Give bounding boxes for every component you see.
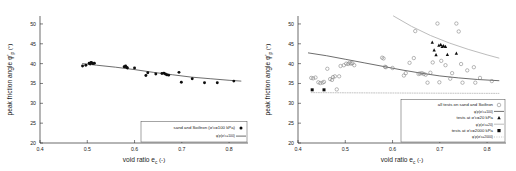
- data-point: [429, 71, 432, 74]
- x-axis-label: void ratio ec (-): [381, 156, 423, 165]
- x-axis-label-text: void ratio ec (-): [123, 156, 165, 165]
- plot-area-left: [81, 61, 241, 84]
- legend-label: all tests on sand and Soiltron: [438, 102, 494, 107]
- data-point: [337, 75, 340, 78]
- legend-label: sand and Soiltron (σ'c=100 kPa): [174, 125, 236, 130]
- data-point: [133, 67, 136, 70]
- legend-marker-filled-square: [497, 129, 500, 132]
- y-tick-label: 40: [288, 61, 294, 67]
- series-filled-circle: [81, 61, 235, 84]
- data-point: [426, 81, 429, 84]
- x-tick-label: 0.5: [342, 146, 349, 152]
- data-point: [414, 29, 417, 32]
- legend-left: sand and Soiltron (σ'c=100 kPa)φ'p(σ'c=1…: [141, 122, 247, 142]
- series-filled-square: [311, 88, 326, 91]
- data-point: [93, 62, 96, 65]
- y-tick-label: 20: [288, 140, 294, 146]
- data-point: [404, 71, 407, 74]
- y-axis-label-text: peak friction angle φ'p (°): [264, 44, 273, 116]
- data-point: [146, 71, 149, 74]
- y-tick-label: 45: [288, 41, 294, 47]
- data-point: [446, 53, 449, 56]
- data-point: [126, 67, 129, 70]
- x-tick-label: 0.7: [178, 146, 185, 152]
- data-point: [180, 81, 183, 84]
- x-tick-label: 0.5: [84, 146, 91, 152]
- data-point: [490, 79, 493, 82]
- data-point: [457, 30, 460, 33]
- data-point: [154, 72, 157, 75]
- legend-label: tests at σ'c=20 kPa: [456, 115, 493, 120]
- chart-panel-right: 202530354045500.40.50.60.70.8void ratio …: [258, 0, 516, 171]
- data-point: [474, 81, 477, 84]
- y-tick-label: 35: [30, 80, 36, 86]
- x-tick-label: 0.7: [436, 146, 443, 152]
- data-point: [203, 81, 206, 84]
- chart-svg-left: 202530354045500.40.50.60.70.8void ratio …: [0, 0, 258, 171]
- x-axis-label: void ratio ec (-): [123, 156, 165, 165]
- legend-label: φ'p(σ'c=100): [474, 110, 493, 114]
- y-tick-label: 45: [30, 41, 36, 47]
- x-tick-label: 0.4: [294, 146, 301, 152]
- data-point: [432, 48, 435, 51]
- legend-item[interactable]: sand and Soiltron (σ'c=100 kPa): [174, 125, 243, 130]
- data-point: [466, 69, 469, 72]
- x-axis-label-text: void ratio ec (-): [381, 156, 423, 165]
- y-axis-label-text: peak friction angle φ'p (°): [6, 44, 15, 116]
- data-point: [167, 74, 170, 77]
- x-tick-label: 0.8: [225, 146, 232, 152]
- legend-label: tests at σ'c=2000 kPa: [452, 128, 494, 133]
- y-tick-label: 20: [30, 140, 36, 146]
- plot-area-right: [308, 16, 499, 93]
- data-point: [459, 62, 462, 65]
- x-tick-label: 0.8: [483, 146, 490, 152]
- data-point: [326, 67, 329, 70]
- curve-solid: [308, 53, 499, 81]
- legend-label: φ'p(σ'c=2000): [472, 135, 493, 139]
- y-tick-label: 50: [30, 21, 36, 27]
- x-tick-label: 0.4: [36, 146, 43, 152]
- legend-item[interactable]: all tests on sand and Soiltron: [438, 102, 501, 107]
- data-point: [314, 76, 317, 79]
- data-point: [311, 88, 314, 91]
- data-point: [461, 81, 464, 84]
- x-tick-label: 0.6: [131, 146, 138, 152]
- data-point: [232, 80, 235, 83]
- data-point: [412, 56, 415, 59]
- legend-right: all tests on sand and Soiltronφ'p(σ'c=10…: [401, 100, 505, 142]
- data-point: [434, 53, 437, 56]
- y-tick-label: 30: [30, 100, 36, 106]
- y-tick-label: 35: [288, 80, 294, 86]
- series-open-circle: [310, 22, 494, 91]
- y-axis-label: peak friction angle φ'p (°): [264, 44, 273, 116]
- data-point: [438, 81, 441, 84]
- curve-solid-light: [393, 16, 498, 58]
- y-tick-label: 25: [288, 120, 294, 126]
- data-point: [408, 61, 411, 64]
- y-tick-label: 50: [288, 21, 294, 27]
- data-point: [191, 77, 194, 80]
- chart-panel-left: 202530354045500.40.50.60.70.8void ratio …: [0, 0, 258, 171]
- x-tick-label: 0.6: [389, 146, 396, 152]
- data-point: [81, 65, 84, 68]
- data-point: [450, 71, 453, 74]
- legend-marker-filled-circle: [240, 126, 243, 129]
- data-point: [444, 64, 447, 67]
- series-filled-triangle: [431, 40, 458, 56]
- data-point: [84, 64, 87, 67]
- data-point: [178, 71, 181, 74]
- data-point: [335, 88, 338, 91]
- curve-dotted: [311, 93, 499, 94]
- y-tick-label: 30: [288, 100, 294, 106]
- data-point: [431, 40, 434, 43]
- data-point: [339, 64, 342, 67]
- data-point: [144, 74, 147, 77]
- legend-label: φ'p(σ'c=100): [216, 134, 235, 138]
- y-axis-label: peak friction angle φ'p (°): [6, 44, 15, 116]
- data-point: [353, 64, 356, 67]
- chart-svg-right: 202530354045500.40.50.60.70.8void ratio …: [258, 0, 516, 171]
- data-point: [216, 81, 219, 84]
- y-tick-label: 40: [30, 61, 36, 67]
- data-point: [436, 22, 439, 25]
- data-point: [455, 52, 458, 55]
